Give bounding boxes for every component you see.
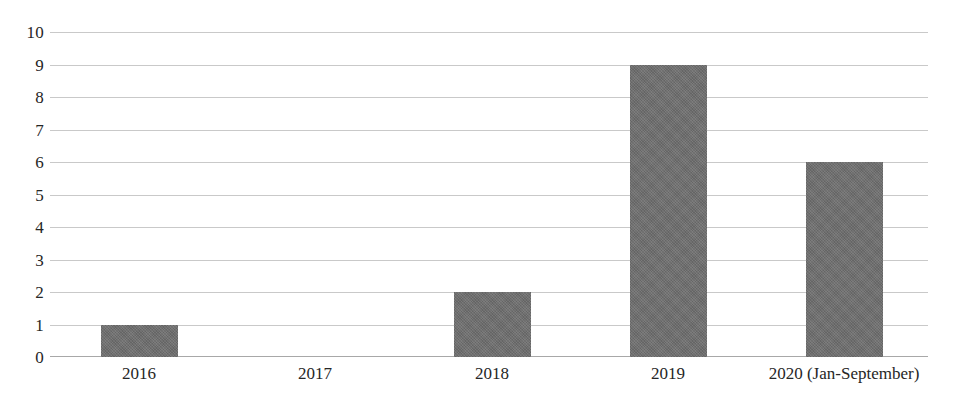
x-axis-label-2020: 2020 (Jan-September) bbox=[769, 362, 920, 386]
y-axis-tick-label: 3 bbox=[4, 252, 44, 269]
plot-area bbox=[50, 32, 928, 357]
x-axis-label-2019: 2019 bbox=[651, 362, 685, 386]
bar-2016 bbox=[101, 325, 178, 358]
y-axis-tick-label: 2 bbox=[4, 284, 44, 301]
y-axis-tick-label: 10 bbox=[4, 24, 44, 41]
y-axis-tick-label: 9 bbox=[4, 57, 44, 74]
bar-2020 bbox=[806, 162, 883, 357]
y-axis-tick-label: 7 bbox=[4, 122, 44, 139]
x-axis-label-2017: 2017 bbox=[298, 362, 332, 386]
y-axis-tick-labels: 10 9 8 7 6 5 4 3 2 1 0 bbox=[0, 32, 44, 357]
y-axis-tick-label: 0 bbox=[4, 349, 44, 366]
x-axis-tick-labels: 2016 2017 2018 2019 2020 (Jan-September) bbox=[50, 362, 928, 392]
bar-chart: 10 9 8 7 6 5 4 3 2 1 0 2016 2 bbox=[0, 0, 953, 404]
y-axis-tick-label: 1 bbox=[4, 317, 44, 334]
y-axis-tick-label: 5 bbox=[4, 187, 44, 204]
x-axis-label-2018: 2018 bbox=[475, 362, 509, 386]
y-axis-tick-label: 6 bbox=[4, 154, 44, 171]
y-axis-tick-label: 8 bbox=[4, 89, 44, 106]
bars-layer bbox=[50, 32, 928, 357]
y-axis-tick-label: 4 bbox=[4, 219, 44, 236]
bar-2019 bbox=[630, 65, 707, 358]
bar-2018 bbox=[454, 292, 531, 357]
x-axis-label-2016: 2016 bbox=[122, 362, 156, 386]
